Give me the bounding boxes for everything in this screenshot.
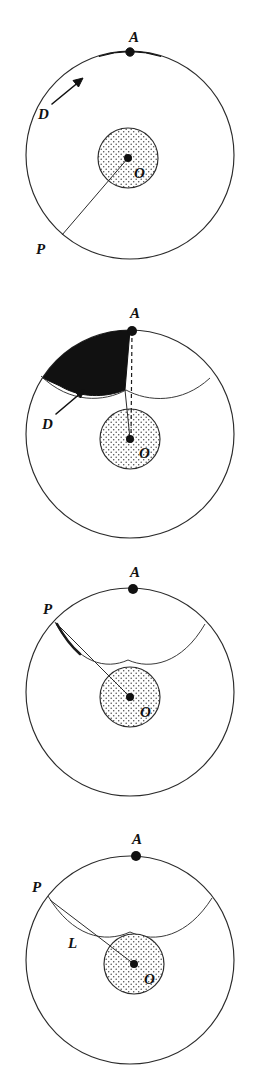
label-l: L <box>67 935 77 951</box>
label-o: O <box>139 445 150 461</box>
label-a: A <box>129 305 140 321</box>
point-o-dot <box>130 960 138 968</box>
region-d-fill <box>43 330 131 396</box>
label-p: P <box>43 601 53 617</box>
label-d: D <box>37 106 49 122</box>
label-o: O <box>134 165 145 181</box>
label-p: P <box>36 241 46 257</box>
point-o-dot <box>124 154 132 162</box>
region-d-arrow <box>56 389 85 414</box>
point-o-dot <box>126 435 134 443</box>
figure-stack: A O P D <box>0 0 257 1082</box>
point-a-dot <box>131 851 141 861</box>
point-a-dot <box>127 326 137 336</box>
caustic-arc <box>48 896 212 937</box>
region-d-bump <box>126 48 134 56</box>
diagram-panel-3: A O P <box>0 552 257 800</box>
label-a: A <box>128 29 139 45</box>
label-a: A <box>129 564 140 580</box>
caustic-arc <box>55 622 205 664</box>
label-o: O <box>140 704 151 720</box>
segment-p-o <box>59 626 130 697</box>
label-d: D <box>41 416 53 432</box>
segment-p-o <box>62 158 128 235</box>
label-o: O <box>144 971 155 987</box>
arc-p-highlight <box>57 624 80 654</box>
diagram-panel-1: A O P D <box>0 18 257 270</box>
label-p: P <box>32 879 42 895</box>
point-o-dot <box>126 693 134 701</box>
label-a: A <box>131 831 142 847</box>
diagram-panel-2: A O D <box>0 286 257 542</box>
point-a-dot <box>128 584 138 594</box>
diagram-panel-4: A O P L <box>0 818 257 1076</box>
